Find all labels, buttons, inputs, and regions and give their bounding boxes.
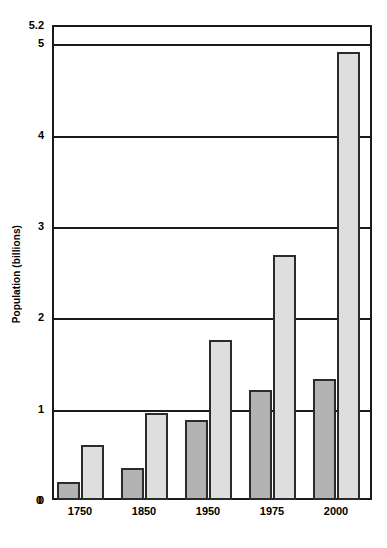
bar-1750-more-developed-regions-light xyxy=(81,445,104,500)
y-axis-tick-labels: 0123455.2 xyxy=(0,0,52,548)
bar-1850-less-developed-regions-dark xyxy=(121,468,144,500)
y-axis-zero-label: 0 xyxy=(36,494,42,506)
bar-1975-more-developed-regions-light xyxy=(273,255,296,500)
x-axis-tick-label: 1975 xyxy=(260,505,284,517)
y-axis-tick-label: 3 xyxy=(38,220,44,232)
chart-figure: Population (billions) 0123455.2 17501850… xyxy=(0,0,387,548)
bar-1950-less-developed-regions-dark xyxy=(185,420,208,500)
y-axis-tick-label: 5 xyxy=(38,37,44,49)
bar-1950-more-developed-regions-light xyxy=(209,340,232,500)
y-axis-tick-label: 4 xyxy=(38,129,44,141)
y-axis-tick-label: 1 xyxy=(38,403,44,415)
x-axis-tick-label: 1950 xyxy=(196,505,220,517)
y-axis-tick-label: 5.2 xyxy=(29,19,44,31)
x-axis-tick-label: 2000 xyxy=(324,505,348,517)
bar-1975-less-developed-regions-dark xyxy=(249,390,272,500)
bar-2000-more-developed-regions-light xyxy=(337,52,360,500)
bar-1850-more-developed-regions-light xyxy=(145,413,168,500)
bar-2000-less-developed-regions-dark xyxy=(313,379,336,500)
y-axis-tick-label: 2 xyxy=(38,311,44,323)
x-axis-tick-label: 1750 xyxy=(68,505,92,517)
x-axis-tick-labels: 17501850195019752000 xyxy=(52,503,372,527)
bar-1750-less-developed-regions-dark xyxy=(57,482,80,500)
bars-layer xyxy=(52,25,372,500)
x-axis-tick-label: 1850 xyxy=(132,505,156,517)
